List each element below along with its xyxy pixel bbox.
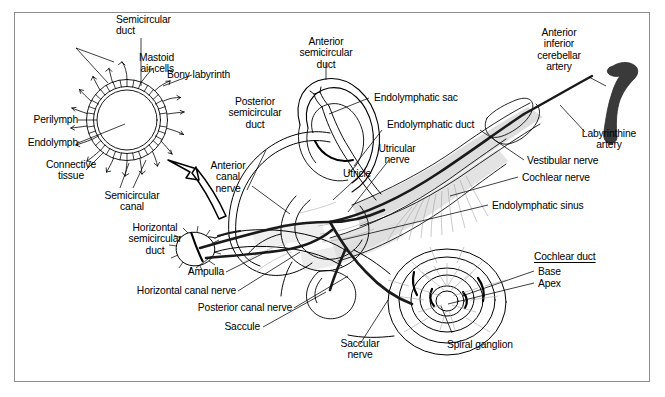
- label-semicircular-canal: Semicircular canal: [90, 190, 174, 213]
- label-spiral-ganglion: Spiral ganglion: [447, 339, 513, 350]
- labyrinthine-artery: [524, 76, 592, 114]
- label-cochlear-duct-base: Base: [538, 266, 561, 277]
- label-endolymphatic-sac: Endolymphatic sac: [374, 92, 458, 103]
- label-endolymphatic-sinus: Endolymphatic sinus: [492, 200, 584, 211]
- saccule: [306, 270, 355, 318]
- label-bony-labyrinth: Bony labyrinth: [167, 69, 230, 80]
- label-semicircular-duct: Semicircular duct: [116, 14, 171, 37]
- label-ampulla: Ampulla: [150, 266, 224, 277]
- anterior-duct-inner-shadow: [315, 141, 353, 161]
- label-anterior-semicircular-duct: Anterior semicircular duct: [279, 36, 373, 70]
- label-endolymph: Endolymph: [14, 137, 78, 148]
- label-utricular-nerve: Utricular nerve: [366, 143, 428, 166]
- label-connective-tissue: Connective tissue: [34, 159, 108, 182]
- label-vestibular-nerve: Vestibular nerve: [527, 155, 598, 166]
- label-mastoid-air-cells: Mastoid air cells: [104, 52, 174, 75]
- label-posterior-semicircular-duct: Posterior semicircular duct: [207, 96, 303, 130]
- label-anterior-inferior-cerebellar-artery: Anterior inferior cerebellar artery: [516, 27, 602, 73]
- label-perilymph: Perilymph: [20, 114, 78, 125]
- label-horizontal-semicircular-duct: Horizontal semicircular duct: [112, 222, 198, 256]
- label-saccule: Saccule: [196, 321, 260, 332]
- label-endolymphatic-duct: Endolymphatic duct: [387, 119, 474, 130]
- label-labyrinthine-artery: Labyrinthine artery: [568, 128, 650, 151]
- label-horizontal-canal-nerve: Horizontal canal nerve: [104, 285, 236, 296]
- label-posterior-canal-nerve: Posterior canal nerve: [162, 302, 292, 313]
- label-saccular-nerve: Saccular nerve: [324, 338, 396, 361]
- label-cochlear-nerve: Cochlear nerve: [522, 172, 590, 183]
- spiral-ganglion-fibers: [388, 247, 506, 332]
- label-utricle: Utricle: [343, 168, 371, 179]
- label-cochlear-duct-apex: Apex: [538, 278, 561, 289]
- label-anterior-canal-nerve: Anterior canal nerve: [196, 160, 260, 194]
- anatomy-figure: Semicircular duct Mastoid air cells Bony…: [0, 0, 665, 397]
- label-cochlear-duct-heading: Cochlear duct: [534, 251, 596, 262]
